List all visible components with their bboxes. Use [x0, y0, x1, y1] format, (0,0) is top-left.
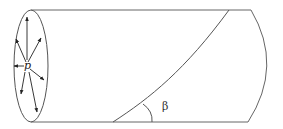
- arrow-down-icon: [29, 72, 37, 112]
- cylinder-right-cut: [248, 10, 267, 122]
- helical-seam: [113, 10, 229, 122]
- arrow-down-right-icon: [30, 69, 44, 80]
- pressure-label: p: [24, 59, 31, 72]
- angle-arc: [143, 104, 152, 122]
- arrow-down-left-icon: [21, 72, 25, 94]
- cylinder-diagram: β p: [0, 0, 283, 129]
- angle-label: β: [162, 100, 168, 113]
